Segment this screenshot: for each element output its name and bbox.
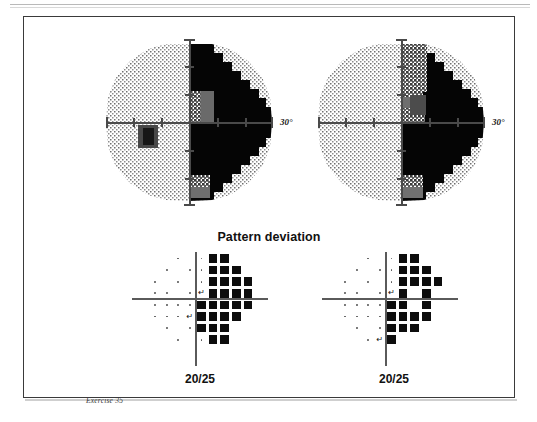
normal-point-marker <box>177 316 179 318</box>
pattern-deviation-depressed-point <box>208 265 219 276</box>
pattern-deviation-depressed-point <box>398 288 409 299</box>
normal-point-marker <box>356 292 358 294</box>
depressed-point-marker <box>232 277 241 286</box>
depressed-point-marker <box>422 312 431 321</box>
pattern-deviation-depressed-point <box>421 311 432 322</box>
normal-point-marker <box>379 269 381 271</box>
depressed-point-marker <box>410 266 419 275</box>
pattern-deviation-normal-point <box>374 299 385 310</box>
normal-point-marker <box>189 327 191 329</box>
pattern-deviation-normal-point <box>150 311 161 322</box>
normal-point-marker <box>189 304 191 306</box>
depressed-point-marker <box>399 266 408 275</box>
pattern-deviation-depressed-point <box>409 265 420 276</box>
depressed-point-marker <box>220 312 229 321</box>
axis-cap-east-left <box>271 117 273 128</box>
pattern-deviation-depressed-point <box>231 265 242 276</box>
depressed-point-marker <box>209 312 218 321</box>
axis-degree-label-right: 30° <box>492 117 505 127</box>
pattern-deviation-horizontal-meridian <box>322 298 458 300</box>
pattern-deviation-depressed-point <box>208 276 219 287</box>
depressed-point-marker <box>244 301 253 310</box>
pattern-deviation-normal-point <box>374 323 385 334</box>
normal-point-marker <box>344 281 346 283</box>
depressed-point-marker <box>410 312 419 321</box>
normal-point-marker <box>356 327 358 329</box>
pattern-deviation-normal-point <box>196 276 207 287</box>
normal-point-marker <box>166 269 168 271</box>
pattern-deviation-normal-point <box>351 288 362 299</box>
pattern-deviation-depressed-point <box>421 276 432 287</box>
axis-tick-right-h1 <box>345 118 347 127</box>
depressed-point-marker <box>197 324 206 333</box>
pattern-deviation-normal-point <box>374 288 385 299</box>
pattern-deviation-normal-point <box>184 323 195 334</box>
normal-point-marker <box>367 258 369 260</box>
pattern-deviation-normal-point <box>374 265 385 276</box>
depressed-point-marker <box>232 301 241 310</box>
pattern-deviation-depressed-point <box>386 311 397 322</box>
axis-cap-top-left <box>184 39 195 41</box>
normal-point-marker <box>154 292 156 294</box>
depressed-point-marker <box>220 335 229 344</box>
pattern-deviation-normal-point <box>161 265 172 276</box>
normal-point-marker <box>356 316 358 318</box>
normal-point-marker <box>367 339 369 341</box>
pattern-deviation-vertical-meridian <box>385 252 387 366</box>
axis-tick-right-v1 <box>397 66 406 68</box>
pattern-deviation-depressed-point <box>409 323 420 334</box>
axis-tick-right-h2 <box>373 118 375 127</box>
pattern-deviation-depressed-point <box>208 334 219 345</box>
axis-tick-right-v3 <box>397 150 406 152</box>
pattern-deviation-depressed-point <box>208 288 219 299</box>
pattern-deviation-depressed-point <box>208 299 219 310</box>
pattern-deviation-depressed-point <box>398 265 409 276</box>
pattern-deviation-depressed-point <box>409 276 420 287</box>
pattern-deviation-depressed-point <box>386 299 397 310</box>
pattern-deviation-depressed-point <box>196 299 207 310</box>
normal-point-marker <box>356 304 358 306</box>
pattern-deviation-normal-point <box>340 276 351 287</box>
depressed-point-marker <box>399 312 408 321</box>
depressed-point-marker <box>220 324 229 333</box>
pattern-deviation-depressed-point <box>219 311 230 322</box>
pattern-deviation-normal-point <box>351 323 362 334</box>
depressed-point-marker <box>422 266 431 275</box>
pattern-deviation-normal-point <box>363 253 374 264</box>
pattern-deviation-normal-point <box>374 311 385 322</box>
axis-tick-left-v3 <box>185 150 194 152</box>
figure-caption: Exercise 35 <box>86 396 123 405</box>
depressed-point-marker <box>232 266 241 275</box>
normal-point-marker <box>391 281 393 283</box>
depressed-point-marker <box>220 277 229 286</box>
axis-tick-left-h4 <box>245 118 247 127</box>
depressed-point-marker <box>232 289 241 298</box>
axis-tick-right-h4 <box>457 118 459 127</box>
normal-point-marker <box>177 281 179 283</box>
blind-spot-glyph: ↵ <box>388 289 395 297</box>
axis-tick-left-v4 <box>185 178 194 180</box>
normal-point-marker <box>379 304 381 306</box>
pattern-deviation-depressed-point <box>208 253 219 264</box>
pattern-deviation-depressed-point <box>208 323 219 334</box>
pattern-deviation-depressed-point <box>231 276 242 287</box>
figure-frame: 30° <box>23 16 515 398</box>
blind-spot-marker: ↵ <box>184 311 195 322</box>
pattern-deviation-normal-point <box>351 311 362 322</box>
depressed-point-marker <box>244 289 253 298</box>
pattern-deviation-depressed-point <box>386 323 397 334</box>
depressed-point-marker <box>399 277 408 286</box>
depressed-point-marker <box>209 254 218 263</box>
pattern-deviation-vertical-meridian <box>195 252 197 366</box>
pattern-deviation-plot-left-eye: ↵↵ <box>132 250 272 370</box>
pattern-deviation-depressed-point <box>219 253 230 264</box>
blind-spot-glyph: ↵ <box>187 313 194 321</box>
pattern-deviation-normal-point <box>173 276 184 287</box>
depressed-point-marker <box>209 266 218 275</box>
normal-point-marker <box>344 304 346 306</box>
depressed-point-marker <box>399 301 408 310</box>
depressed-point-marker <box>209 324 218 333</box>
normal-point-marker <box>201 339 203 341</box>
pattern-deviation-normal-point <box>196 265 207 276</box>
normal-point-marker <box>379 327 381 329</box>
